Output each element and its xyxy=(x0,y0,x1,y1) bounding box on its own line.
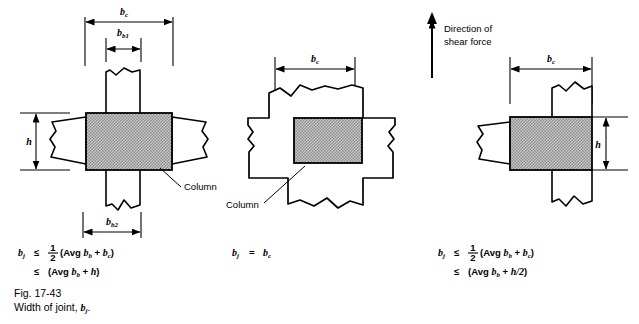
formula-left-line1-rel: ≤ xyxy=(34,247,39,258)
column-section-right xyxy=(510,117,592,170)
beam-left-left xyxy=(50,117,86,164)
column-label-left: Column xyxy=(184,181,217,192)
shear-direction-label-line1: Direction of xyxy=(444,23,492,34)
formula-right-line2-rel: ≤ xyxy=(454,266,459,277)
beam-left-right xyxy=(477,122,510,164)
figure-caption-line1: Fig. 17-43 xyxy=(14,287,61,299)
formula-left-line2-rel: ≤ xyxy=(34,266,39,277)
column-section-middle xyxy=(294,118,362,163)
column-section-left xyxy=(86,113,172,170)
formula-right-frac-den: 2 xyxy=(470,252,475,263)
formula-left-frac-den: 2 xyxy=(50,252,55,263)
dimension-label-h-left: h xyxy=(26,136,32,147)
beam-right-left xyxy=(172,117,208,164)
shear-direction-label-line2: shear force xyxy=(444,36,492,47)
dimension-label-h-right: h xyxy=(595,139,601,150)
formula-middle-rel: = xyxy=(249,247,255,258)
figure-caption-line2: Width of joint, bj. xyxy=(14,301,90,315)
figure-svg: bc bb1 h xyxy=(0,0,639,324)
beam-top-left xyxy=(106,68,140,113)
figure-container: bc bb1 h xyxy=(0,0,639,324)
column-label-middle: Column xyxy=(226,199,259,210)
formula-right-line1-rel: ≤ xyxy=(454,247,459,258)
